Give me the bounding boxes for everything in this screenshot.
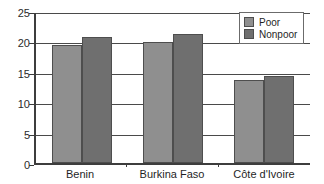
bar-burkina-faso-nonpoor — [173, 34, 203, 163]
bar-benin-poor — [52, 45, 82, 163]
bar-chart: 25 20 15 10 5 0 — [0, 0, 324, 184]
y-tick-label-25: 25 — [2, 8, 30, 19]
y-tick-label-20: 20 — [2, 38, 30, 49]
x-tick-label-cote-divoire: Côte d'Ivoire — [218, 167, 310, 184]
bar-burkina-faso-poor — [143, 42, 173, 163]
bar-group-burkina-faso — [127, 13, 218, 163]
y-tick-label-10: 10 — [2, 99, 30, 110]
plot-area: Poor Nonpoor — [34, 13, 310, 165]
bar-group-benin — [36, 13, 127, 163]
y-tick-mark-0 — [29, 165, 34, 166]
y-tick-label-5: 5 — [2, 129, 30, 140]
bar-cote-divoire-poor — [234, 80, 264, 163]
bar-benin-nonpoor — [82, 37, 112, 163]
y-tick-label-15: 15 — [2, 68, 30, 79]
legend-item-poor: Poor — [244, 16, 297, 28]
legend: Poor Nonpoor — [239, 12, 304, 44]
legend-label-nonpoor: Nonpoor — [259, 29, 297, 40]
x-tick-label-benin: Benin — [34, 167, 126, 184]
legend-label-poor: Poor — [259, 17, 280, 28]
x-tick-label-burkina-faso: Burkina Faso — [126, 167, 218, 184]
y-axis: 25 20 15 10 5 0 — [0, 0, 30, 184]
legend-item-nonpoor: Nonpoor — [244, 28, 297, 40]
bar-cote-divoire-nonpoor — [264, 76, 294, 163]
legend-swatch-nonpoor-icon — [244, 29, 254, 39]
legend-swatch-poor-icon — [244, 17, 254, 27]
x-axis: Benin Burkina Faso Côte d'Ivoire — [34, 167, 310, 184]
y-tick-label-0: 0 — [2, 160, 30, 171]
